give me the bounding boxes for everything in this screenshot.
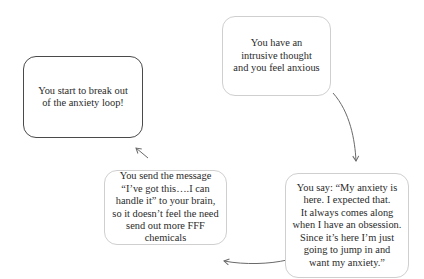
node-intrusive-thought: You have an intrusive thought and you fe… [222, 16, 331, 96]
node-send-message: You send the message “I’ve got this….I c… [104, 170, 227, 245]
arrow-say-to-send [224, 260, 287, 264]
arrow-send-to-break [136, 148, 148, 158]
arrow-intrusive-to-say [333, 93, 356, 161]
node-you-say: You say: “My anxiety is here. I expected… [285, 173, 409, 278]
node-break-out-of-loop: You start to break out of the anxiety lo… [23, 56, 143, 138]
